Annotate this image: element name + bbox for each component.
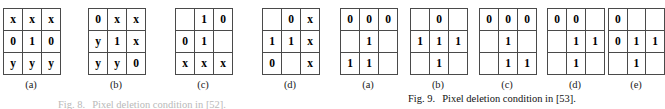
matrix-cell: y [108, 53, 127, 75]
figure-caption-left-number: Fig. 8. [58, 99, 85, 109]
matrix-cell: 0 [263, 53, 282, 75]
pixel-matrix: 1001xxx [175, 8, 233, 75]
matrix-row: 01 [176, 31, 233, 53]
matrix-cell: y [89, 53, 108, 75]
matrix-cell: 1 [499, 53, 518, 75]
matrix-cell: 1 [567, 53, 586, 75]
matrix-row: 0 [609, 9, 665, 31]
pixel-matrix: 0x11x0x [262, 8, 320, 75]
matrix-panel: 0x11x0x [262, 8, 320, 75]
matrix-cell: x [42, 9, 61, 31]
matrix-panel: 0xxy1xyy0 [88, 8, 146, 75]
matrix-cell: 0 [548, 9, 567, 31]
matrix-row: 011 [609, 31, 665, 53]
matrix-row: 1 [609, 53, 665, 75]
matrix-row: yy0 [89, 53, 146, 75]
matrix-cell: x [23, 9, 42, 31]
matrix-cell: 1 [360, 31, 379, 53]
panel-label: (a) [1, 80, 61, 91]
matrix-cell [548, 31, 567, 53]
matrix-cell: 1 [263, 31, 282, 53]
matrix-panel: 00111 [608, 8, 665, 75]
matrix-cell: 1 [195, 9, 214, 31]
matrix-cell: 0 [4, 31, 23, 53]
matrix-cell: 0 [379, 9, 398, 31]
matrix-cell: 0 [567, 9, 586, 31]
matrix-cell [411, 53, 430, 75]
matrix-row: xxx [176, 53, 233, 75]
matrix-cell: 1 [586, 31, 605, 53]
matrix-cell [586, 53, 605, 75]
matrix-cell: x [108, 9, 127, 31]
figure-caption-right: Fig. 9.Pixel deletion condition in [53]. [408, 93, 576, 105]
matrix-cell: 1 [195, 31, 214, 53]
matrix-panel: 00111 [547, 8, 605, 75]
matrix-cell [646, 53, 665, 75]
matrix-cell: 1 [627, 53, 646, 75]
matrix-panel: 01111 [410, 8, 468, 75]
matrix-cell: 1 [430, 31, 449, 53]
matrix-row: 1 [548, 53, 605, 75]
panel-label: (d) [260, 80, 320, 91]
matrix-cell [449, 9, 468, 31]
matrix-cell: y [4, 53, 23, 75]
matrix-cell: 0 [214, 9, 233, 31]
matrix-cell: 0 [282, 9, 301, 31]
matrix-cell: 0 [430, 9, 449, 31]
matrix-row: 1 [411, 53, 468, 75]
matrix-cell [548, 53, 567, 75]
matrix-cell [379, 53, 398, 75]
matrix-panel: 1001xxx [175, 8, 233, 75]
matrix-cell: 1 [282, 31, 301, 53]
matrix-cell [379, 31, 398, 53]
matrix-cell [646, 9, 665, 31]
pixel-matrix: 0xxy1xyy0 [88, 8, 146, 75]
matrix-row: 1 [480, 31, 537, 53]
matrix-cell: x [301, 9, 320, 31]
figure-caption-left: Fig. 8.Pixel deletion condition in [52]. [58, 99, 226, 109]
matrix-cell: 0 [89, 9, 108, 31]
matrix-cell: 1 [449, 31, 468, 53]
matrix-cell: y [42, 53, 61, 75]
panel-label: (d) [545, 80, 605, 91]
matrix-cell: x [195, 53, 214, 75]
figure-caption-left-text: Pixel deletion condition in [52]. [92, 99, 226, 109]
matrix-cell: 0 [176, 31, 195, 53]
matrix-cell: 1 [108, 31, 127, 53]
matrix-cell [214, 31, 233, 53]
matrix-row: 000 [341, 9, 398, 31]
matrix-cell: 1 [23, 31, 42, 53]
panel-label: (b) [408, 80, 468, 91]
matrix-cell [341, 31, 360, 53]
matrix-row: 11 [480, 53, 537, 75]
matrix-row: xxx [4, 9, 61, 31]
matrix-cell [480, 31, 499, 53]
matrix-cell: 0 [127, 53, 146, 75]
matrix-cell: x [127, 9, 146, 31]
matrix-cell: 0 [609, 9, 628, 31]
pixel-matrix: 000111 [340, 8, 398, 75]
matrix-row: yyy [4, 53, 61, 75]
matrix-cell: 1 [341, 53, 360, 75]
matrix-panel: 000111 [340, 8, 398, 75]
matrix-row: 1 [341, 31, 398, 53]
matrix-row: 0 [411, 9, 468, 31]
matrix-row: 0xx [89, 9, 146, 31]
matrix-cell: 1 [411, 31, 430, 53]
panel-label: (e) [606, 80, 665, 91]
matrix-cell: 1 [646, 31, 665, 53]
matrix-cell: y [89, 31, 108, 53]
matrix-cell: x [301, 53, 320, 75]
matrix-cell [627, 9, 646, 31]
matrix-cell: 0 [341, 9, 360, 31]
matrix-row: 11 [548, 31, 605, 53]
pixel-matrix: 01111 [410, 8, 468, 75]
matrix-cell: y [23, 53, 42, 75]
matrix-cell: x [4, 9, 23, 31]
matrix-cell [518, 31, 537, 53]
matrix-cell [480, 53, 499, 75]
matrix-cell [586, 9, 605, 31]
matrix-cell: x [176, 53, 195, 75]
matrix-row: 0x [263, 53, 320, 75]
matrix-cell: x [301, 31, 320, 53]
